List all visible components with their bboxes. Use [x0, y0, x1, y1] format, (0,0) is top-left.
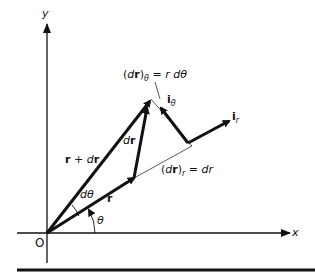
- theta-arc: [89, 210, 95, 233]
- unit-theta-label: iθ: [167, 94, 176, 108]
- dtheta-label: dθ: [80, 189, 94, 200]
- unit-r-vector: [188, 121, 229, 143]
- dr-label: dr: [123, 135, 135, 146]
- r-vector: [47, 178, 134, 233]
- x-axis-label: x: [292, 227, 299, 238]
- unit-r-label: ir: [232, 111, 239, 125]
- dr-theta-annotation: (dr)θ = r dθ: [123, 69, 187, 83]
- r-plus-dr-label: r + dr: [65, 154, 99, 165]
- r-label: r: [107, 193, 112, 204]
- polar-vector-diagram: [0, 0, 315, 278]
- theta-label: θ: [97, 215, 104, 226]
- dr-r-annotation: (dr)r = dr: [161, 164, 213, 178]
- origin-label: O: [35, 237, 44, 249]
- unit-theta-vector: [161, 108, 188, 143]
- dr-theta-leader: [155, 82, 160, 99]
- y-axis-label: y: [42, 8, 49, 19]
